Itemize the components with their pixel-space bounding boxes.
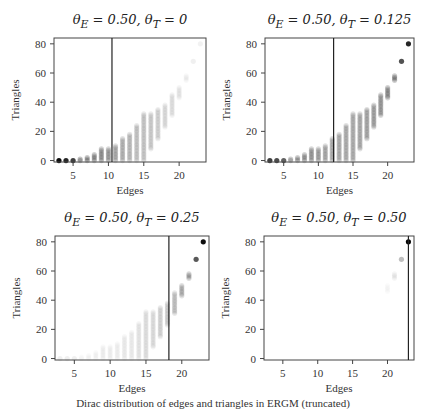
data-point bbox=[392, 271, 397, 276]
data-point bbox=[385, 283, 390, 288]
y-tick-label: 40 bbox=[245, 294, 257, 306]
x-tick-label: 10 bbox=[312, 367, 324, 379]
y-axis-label: Triangles bbox=[219, 277, 231, 318]
x-tick-label: 20 bbox=[382, 367, 394, 379]
x-tick-label: 15 bbox=[347, 367, 359, 379]
data-point bbox=[399, 257, 404, 262]
y-tick-label: 80 bbox=[245, 236, 257, 248]
x-axis-label: Edges bbox=[326, 382, 353, 394]
y-tick-label: 20 bbox=[245, 323, 257, 335]
y-tick-label: 0 bbox=[251, 353, 257, 365]
y-tick-label: 60 bbox=[245, 265, 257, 277]
figure-caption: Dirac distribution of edges and triangle… bbox=[0, 397, 426, 409]
x-tick-label: 5 bbox=[280, 367, 286, 379]
plot-frame bbox=[264, 236, 414, 360]
